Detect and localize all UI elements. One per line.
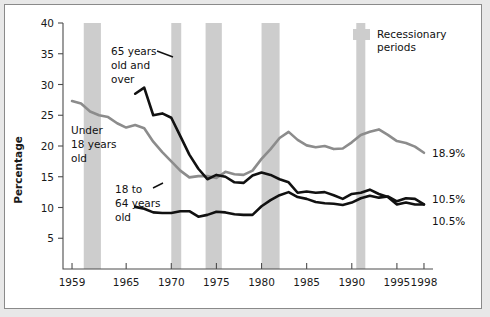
annotation-under18-line-1: Under (71, 124, 103, 136)
y-tick-label-25: 25 (41, 109, 54, 121)
y-tick-label-30: 30 (41, 79, 54, 91)
legend-label-line-2: periods (377, 41, 416, 53)
y-axis-title: Percentage (12, 136, 24, 204)
y-tick-label-40: 40 (41, 17, 54, 29)
end-label-under-18-years-old: 18.9% (432, 147, 465, 159)
x-tick-label-1985: 1985 (293, 276, 320, 288)
annotation-age18to64-line-2: 64 years (115, 197, 161, 209)
annotation-under18-line-2: 18 years (71, 138, 117, 150)
annotation-over65-line-3: over (111, 73, 135, 85)
y-tick-label-5: 5 (47, 232, 54, 244)
annotation-age18to64-line-3: old (115, 211, 131, 223)
y-tick-label-20: 20 (41, 140, 54, 152)
annotation-over65: 65 yearsold andover (111, 45, 157, 85)
annotation-age18to64-line-1: 18 to (115, 183, 142, 195)
y-tick-label-10: 10 (41, 202, 54, 214)
x-tick-label-1990: 1990 (338, 276, 365, 288)
recession-band-3 (206, 23, 222, 269)
x-tick-label-1975: 1975 (203, 276, 230, 288)
leader-line-over65 (157, 51, 173, 57)
y-ticks: 510152025303540 (41, 17, 63, 244)
annotation-over65-line-1: 65 years (111, 45, 157, 57)
x-ticks: 195919651970197519801985199019951998 (59, 263, 438, 288)
annotation-age18to64: 18 to64 yearsold (115, 183, 161, 223)
x-tick-label-1970: 1970 (158, 276, 185, 288)
x-tick-label-1980: 1980 (248, 276, 275, 288)
y-tick-label-35: 35 (41, 48, 54, 60)
legend: Recessionary periods (353, 28, 446, 53)
figure-container: 510152025303540 195919651970197519801985… (0, 0, 490, 317)
end-label-18-to-64-years-old: 10.5% (432, 215, 465, 227)
recession-band-5 (356, 23, 365, 269)
leader-line-18to64 (153, 183, 163, 188)
legend-label-line-1: Recessionary (377, 28, 446, 40)
annotation-under18-line-3: old (71, 152, 87, 164)
series-line-under-18-years-old (72, 101, 424, 178)
annotation-over65-line-2: old and (111, 59, 150, 71)
chart-plate: 510152025303540 195919651970197519801985… (4, 4, 482, 309)
end-labels: 18.9%10.5%10.5% (432, 147, 465, 227)
end-label-65-years-old-and-over: 10.5% (432, 193, 465, 205)
recession-band-2 (171, 23, 181, 269)
x-tick-label-1998: 1998 (411, 276, 438, 288)
y-tick-label-15: 15 (41, 171, 54, 183)
x-tick-label-1965: 1965 (113, 276, 140, 288)
poverty-rate-line-chart: 510152025303540 195919651970197519801985… (5, 5, 481, 308)
recession-band-4 (262, 23, 280, 269)
legend-swatch-recessionary (353, 29, 370, 40)
x-tick-label-1995: 1995 (384, 276, 411, 288)
x-tick-label-1959: 1959 (59, 276, 86, 288)
